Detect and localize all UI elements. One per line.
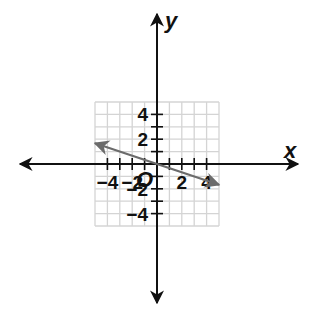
x-tick-label: 2 xyxy=(177,172,188,193)
y-axis-label: y xyxy=(164,8,179,33)
y-tick-label: −4 xyxy=(126,204,148,225)
y-tick-label: 2 xyxy=(137,129,148,150)
x-tick-label: −4 xyxy=(97,172,119,193)
x-axis-label: x xyxy=(283,138,297,163)
origin-label: O xyxy=(136,167,153,192)
y-tick-label: 4 xyxy=(137,104,148,125)
coordinate-plane: −4−22442−2−4 x y O xyxy=(0,0,310,314)
axes xyxy=(20,14,298,303)
